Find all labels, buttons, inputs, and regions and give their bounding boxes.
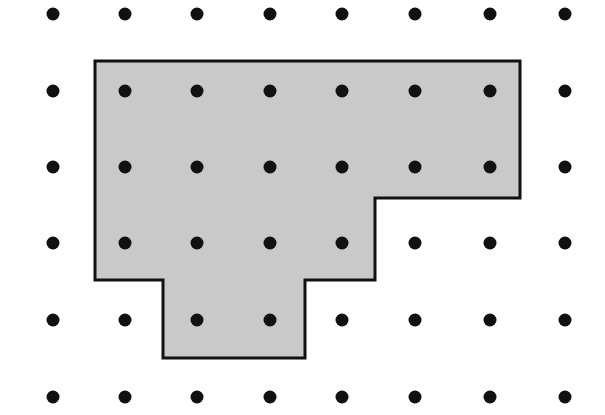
grid-dot xyxy=(336,237,349,250)
grid-dot xyxy=(484,237,497,250)
grid-dot xyxy=(47,8,60,21)
grid-dot xyxy=(409,237,422,250)
grid-dot xyxy=(47,237,60,250)
grid-dot xyxy=(336,314,349,327)
grid-dot xyxy=(47,391,60,404)
dot-grid-polygon-figure xyxy=(0,0,605,415)
grid-dot xyxy=(409,85,422,98)
grid-dot xyxy=(264,237,277,250)
grid-dot xyxy=(119,8,132,21)
grid-dot xyxy=(559,237,572,250)
grid-dot xyxy=(191,391,204,404)
grid-dot xyxy=(191,161,204,174)
grid-dot xyxy=(409,314,422,327)
grid-dot xyxy=(119,391,132,404)
grid-dot xyxy=(409,8,422,21)
grid-dot xyxy=(484,391,497,404)
grid-dot xyxy=(559,314,572,327)
grid-dot xyxy=(119,161,132,174)
grid-dot xyxy=(119,85,132,98)
grid-dot xyxy=(559,391,572,404)
grid-dot xyxy=(264,391,277,404)
grid-dot xyxy=(264,314,277,327)
grid-dot xyxy=(559,161,572,174)
grid-dot xyxy=(409,161,422,174)
grid-dot xyxy=(264,85,277,98)
grid-dot xyxy=(191,85,204,98)
grid-dot xyxy=(559,85,572,98)
grid-dot xyxy=(484,161,497,174)
grid-dot xyxy=(119,237,132,250)
grid-dot xyxy=(191,8,204,21)
grid-dot xyxy=(47,314,60,327)
grid-dot xyxy=(336,8,349,21)
grid-dot xyxy=(409,391,422,404)
grid-dot xyxy=(484,85,497,98)
grid-dot xyxy=(264,161,277,174)
grid-dot xyxy=(484,8,497,21)
grid-dot xyxy=(119,314,132,327)
grid-dot xyxy=(191,314,204,327)
grid-dot xyxy=(336,161,349,174)
grid-dot xyxy=(336,391,349,404)
grid-dot xyxy=(191,237,204,250)
grid-dot xyxy=(47,85,60,98)
grid-dot xyxy=(264,8,277,21)
figure-canvas xyxy=(0,0,605,415)
grid-dot xyxy=(484,314,497,327)
grid-dot xyxy=(559,8,572,21)
grid-dot xyxy=(336,85,349,98)
grid-dot xyxy=(47,161,60,174)
